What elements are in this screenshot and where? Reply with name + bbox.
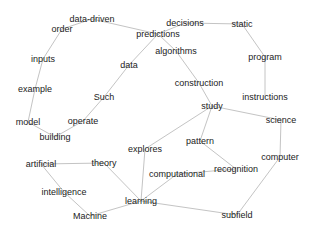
- node-label-study: study: [201, 101, 223, 111]
- node-label-computer: computer: [261, 152, 299, 162]
- node-label-data-driven: data-driven: [69, 14, 114, 24]
- node-label-science: science: [266, 115, 297, 125]
- node-label-pattern: pattern: [186, 136, 214, 146]
- word-graph-diagram: data-drivenorderpredictionsdecisionsstat…: [0, 0, 315, 232]
- node-label-inputs: inputs: [31, 54, 56, 64]
- node-label-model: model: [16, 117, 41, 127]
- node-label-algorithms: algorithms: [155, 46, 197, 56]
- edge-explores-learning: [141, 149, 145, 201]
- node-label-example: example: [18, 84, 52, 94]
- node-label-theory: theory: [91, 158, 117, 168]
- node-label-subfield: subfield: [221, 210, 252, 220]
- node-label-program: program: [248, 52, 282, 62]
- node-label-learning: learning: [125, 196, 157, 206]
- node-label-artificial: artificial: [26, 159, 57, 169]
- node-label-decisions: decisions: [166, 18, 204, 28]
- node-label-explores: explores: [128, 144, 163, 154]
- node-label-order: order: [51, 24, 72, 34]
- node-label-operate: operate: [68, 116, 99, 126]
- node-label-static: static: [231, 19, 253, 29]
- node-label-data: data: [120, 60, 138, 70]
- node-label-building: building: [39, 132, 70, 142]
- node-label-intelligence: intelligence: [41, 187, 86, 197]
- node-label-recognition: recognition: [214, 164, 258, 174]
- node-label-instructions: instructions: [242, 92, 288, 102]
- node-label-machine: Machine: [73, 211, 107, 221]
- node-label-predictions: predictions: [136, 29, 180, 39]
- node-label-construction: construction: [175, 78, 224, 88]
- node-label-such: Such: [94, 92, 115, 102]
- node-label-computational: computational: [149, 169, 205, 179]
